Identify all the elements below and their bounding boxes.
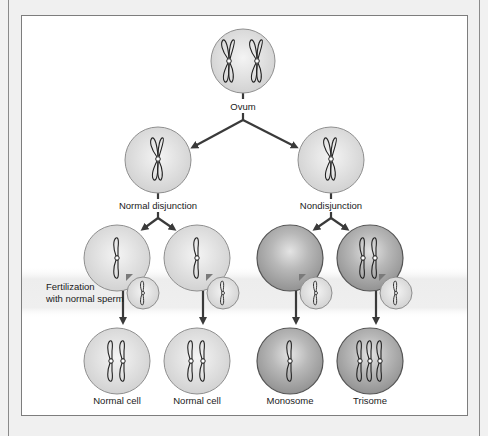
normal-disjunction-label: Normal disjunction xyxy=(119,200,197,211)
result-monosome-label: Monosome xyxy=(267,395,314,406)
ovum-label: Ovum xyxy=(230,101,255,112)
nondisjunction-label: Nondisjunction xyxy=(300,200,362,211)
result-trisome-label: Trisome xyxy=(353,395,387,406)
normal-disjunction-cell xyxy=(125,127,191,193)
fertilization-label-line2: with normal sperm xyxy=(45,293,124,304)
result-normal-cell-2 xyxy=(164,328,230,394)
fertilization-label-line1: Fertilization xyxy=(46,281,95,292)
result-normal-cell-1 xyxy=(84,328,150,394)
result-normal-cell-1-label: Normal cell xyxy=(93,395,141,406)
result-trisome xyxy=(337,328,403,394)
ovum-cell xyxy=(211,29,275,93)
result-normal-cell-2-label: Normal cell xyxy=(173,395,221,406)
result-monosome xyxy=(257,328,323,394)
nondisjunction-cell xyxy=(298,127,364,193)
